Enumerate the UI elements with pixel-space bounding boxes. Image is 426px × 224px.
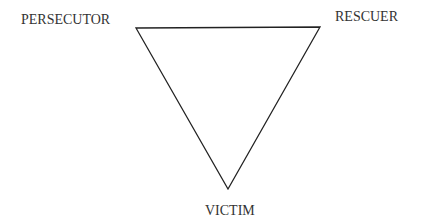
drama-triangle-shape: [136, 27, 320, 189]
triangle-diagram: [0, 0, 426, 224]
victim-label: VICTIM: [205, 204, 255, 218]
rescuer-label: RESCUER: [335, 10, 398, 24]
persecutor-label: PERSECUTOR: [21, 13, 110, 27]
